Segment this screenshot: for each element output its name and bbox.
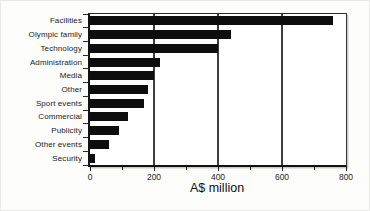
bar-other	[90, 85, 148, 94]
bar-technology	[90, 44, 218, 53]
bar-chart: A$ million FacilitiesOlympic familyTechn…	[0, 0, 370, 211]
y-axis-tick	[83, 82, 89, 83]
x-major-tick-400	[218, 167, 219, 171]
category-label: Publicity	[1, 124, 82, 138]
category-label: Sport events	[1, 96, 82, 110]
x-minor-tick-100	[122, 167, 123, 170]
y-axis-tick	[83, 96, 89, 97]
x-minor-tick-700	[314, 167, 315, 170]
x-tick-label-800: 800	[339, 172, 353, 182]
x-minor-tick-500	[250, 167, 251, 170]
bar-facilities	[90, 16, 333, 25]
y-axis-tick	[83, 165, 89, 166]
x-tick-label-400: 400	[211, 172, 225, 182]
gridline-600	[281, 14, 283, 165]
y-axis-tick	[83, 68, 89, 69]
y-axis-tick	[83, 14, 89, 15]
x-tick-label-600: 600	[275, 172, 289, 182]
y-axis-tick	[83, 27, 89, 28]
x-major-tick-600	[282, 167, 283, 171]
y-axis-tick	[83, 55, 89, 56]
y-axis-tick	[83, 41, 89, 42]
bar-commercial	[90, 112, 128, 121]
category-label: Media	[1, 69, 82, 83]
plot-area	[88, 13, 347, 167]
bar-administration	[90, 58, 160, 67]
bar-sport-events	[90, 99, 144, 108]
category-label: Technology	[1, 41, 82, 55]
y-axis-tick	[83, 110, 89, 111]
category-label: Olympic family	[1, 28, 82, 42]
bar-publicity	[90, 126, 119, 135]
bar-media	[90, 71, 154, 80]
x-major-tick-800	[346, 167, 347, 171]
category-label: Security	[1, 151, 82, 165]
y-axis-tick	[83, 137, 89, 138]
x-minor-tick-300	[186, 167, 187, 170]
x-major-tick-200	[154, 167, 155, 171]
x-tick-label-0: 0	[88, 172, 93, 182]
bar-security	[90, 154, 95, 163]
category-label: Other	[1, 83, 82, 97]
category-label: Other events	[1, 138, 82, 152]
bar-olympic-family	[90, 30, 231, 39]
y-axis-tick	[83, 123, 89, 124]
category-label: Administration	[1, 55, 82, 69]
category-label: Facilities	[1, 14, 82, 28]
x-major-tick-0	[90, 167, 91, 171]
x-axis-title: A$ million	[88, 181, 346, 195]
category-label: Commercial	[1, 110, 82, 124]
x-tick-label-200: 200	[147, 172, 161, 182]
bar-other-events	[90, 140, 109, 149]
y-axis-tick	[83, 151, 89, 152]
